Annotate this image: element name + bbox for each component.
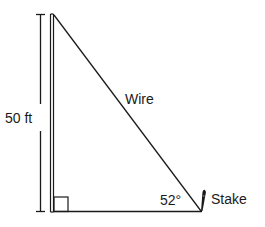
- triangle-diagram: 50 ft Wire 52° Stake: [0, 0, 265, 227]
- angle-label: 52°: [160, 192, 181, 208]
- stake-icon: [201, 190, 206, 211]
- wire-label: Wire: [125, 91, 154, 107]
- wire-line: [54, 15, 201, 211]
- pole: [51, 14, 54, 212]
- height-dimension-line: [36, 14, 45, 212]
- stake-label: Stake: [211, 191, 247, 207]
- right-angle-marker: [54, 197, 68, 212]
- height-label: 50 ft: [5, 110, 32, 126]
